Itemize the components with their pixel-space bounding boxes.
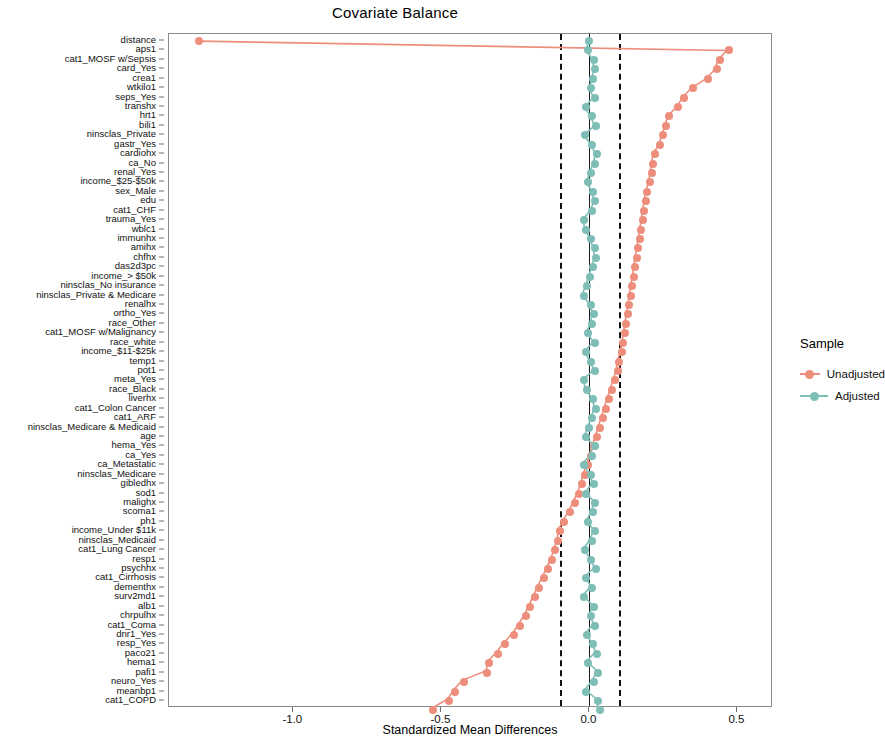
data-point xyxy=(451,688,459,696)
y-axis-tick-mark xyxy=(159,577,164,578)
y-axis-tick-mark xyxy=(159,143,164,144)
data-point xyxy=(526,603,534,611)
y-axis-tick-mark xyxy=(159,690,164,691)
y-axis-tick-mark xyxy=(159,624,164,625)
data-point xyxy=(602,405,610,413)
data-point xyxy=(587,84,595,92)
y-axis-tick-mark xyxy=(159,596,164,597)
data-point xyxy=(599,414,607,422)
y-axis-tick-mark xyxy=(159,313,164,314)
y-axis-tick-mark xyxy=(159,209,164,210)
data-point xyxy=(593,433,601,441)
y-axis-tick-mark xyxy=(159,417,164,418)
data-point xyxy=(588,537,596,545)
y-axis-tick-mark xyxy=(159,304,164,305)
data-point xyxy=(591,94,599,102)
data-point xyxy=(587,301,595,309)
data-point xyxy=(535,584,543,592)
data-point xyxy=(651,150,659,158)
data-point xyxy=(637,226,645,234)
y-axis-tick-mark xyxy=(159,511,164,512)
y-axis-tick-mark xyxy=(159,256,164,257)
y-axis-tick-mark xyxy=(159,134,164,135)
data-point xyxy=(590,56,598,64)
y-axis-tick-mark xyxy=(159,294,164,295)
data-point xyxy=(516,622,524,630)
data-point xyxy=(584,518,592,526)
data-point xyxy=(544,565,552,573)
y-axis-tick-mark xyxy=(159,115,164,116)
y-axis-tick-mark xyxy=(159,398,164,399)
y-axis-tick-mark xyxy=(159,162,164,163)
y-axis-tick-mark xyxy=(159,370,164,371)
y-axis-tick-mark xyxy=(159,181,164,182)
y-axis-tick-mark xyxy=(159,40,164,41)
data-point xyxy=(540,574,548,582)
data-point xyxy=(643,188,651,196)
data-point xyxy=(587,235,595,243)
x-axis-tick-mark xyxy=(440,707,441,712)
data-point xyxy=(586,273,594,281)
legend: Sample Unadjusted Adjusted xyxy=(800,336,885,407)
plot-panel xyxy=(168,33,772,707)
data-point xyxy=(630,273,638,281)
covariate-balance-plot: Covariate Balance distanceaps1cat1_MOSF … xyxy=(0,0,885,737)
data-point xyxy=(587,612,595,620)
legend-item-unadjusted[interactable]: Unadjusted xyxy=(800,363,885,385)
y-axis-tick-mark xyxy=(159,266,164,267)
y-axis-tick-mark xyxy=(159,238,164,239)
data-point xyxy=(587,556,595,564)
y-axis-tick-mark xyxy=(159,322,164,323)
y-axis-tick-mark xyxy=(159,436,164,437)
data-point xyxy=(531,593,539,601)
data-point xyxy=(596,424,604,432)
y-axis-tick-mark xyxy=(159,671,164,672)
data-point xyxy=(583,386,591,394)
data-point xyxy=(587,169,595,177)
y-axis-tick-mark xyxy=(159,652,164,653)
data-point xyxy=(639,216,647,224)
data-point xyxy=(591,622,599,630)
y-axis-tick-mark xyxy=(159,492,164,493)
y-axis-tick-mark xyxy=(159,285,164,286)
y-axis-tick-mark xyxy=(159,643,164,644)
data-point xyxy=(605,395,613,403)
data-point xyxy=(713,65,721,73)
data-point xyxy=(460,678,468,686)
x-axis-tick-mark xyxy=(588,707,589,712)
data-point xyxy=(588,207,596,215)
y-axis-tick-mark xyxy=(159,49,164,50)
y-axis-tick-mark xyxy=(159,539,164,540)
legend-swatch-unadjusted-icon xyxy=(800,368,820,380)
data-point xyxy=(494,650,502,658)
data-point xyxy=(483,669,491,677)
data-point xyxy=(591,527,599,535)
y-axis-tick-mark xyxy=(159,549,164,550)
data-point xyxy=(591,339,599,347)
data-point xyxy=(593,650,601,658)
y-axis-tick-mark xyxy=(159,190,164,191)
data-point xyxy=(716,56,724,64)
data-point xyxy=(640,207,648,215)
data-point xyxy=(633,254,641,262)
y-axis-tick-mark xyxy=(159,464,164,465)
y-axis-tick-mark xyxy=(159,662,164,663)
data-point xyxy=(614,367,622,375)
data-point xyxy=(680,94,688,102)
x-axis-tick-mark xyxy=(292,707,293,712)
data-point xyxy=(592,565,600,573)
data-point xyxy=(594,697,602,705)
y-axis-tick-mark xyxy=(159,360,164,361)
data-point xyxy=(591,160,599,168)
page-title: Covariate Balance xyxy=(0,4,790,21)
y-axis-tick-mark xyxy=(159,615,164,616)
data-point xyxy=(580,461,588,469)
legend-item-adjusted[interactable]: Adjusted xyxy=(800,385,885,407)
y-axis-tick-mark xyxy=(159,379,164,380)
data-point xyxy=(582,433,590,441)
data-point xyxy=(571,499,579,507)
data-point xyxy=(648,169,656,177)
y-axis-tick-mark xyxy=(159,341,164,342)
y-axis-tick-mark xyxy=(159,407,164,408)
series-line-unadjusted xyxy=(199,41,727,708)
